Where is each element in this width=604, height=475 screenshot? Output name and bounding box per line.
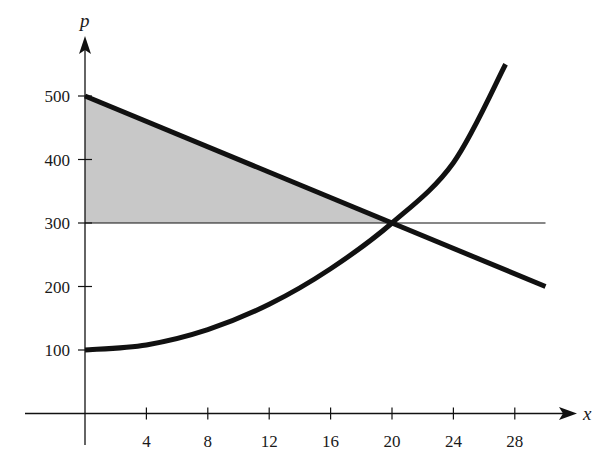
x-tick-label: 16 xyxy=(322,432,339,451)
y-tick-label: 300 xyxy=(45,214,71,233)
y-tick-label: 100 xyxy=(45,341,71,360)
consumer-surplus-chart: xp481216202428100200300400500 xyxy=(0,0,604,475)
x-tick-label: 8 xyxy=(204,432,213,451)
x-tick-label: 28 xyxy=(506,432,523,451)
x-tick-label: 24 xyxy=(445,432,463,451)
x-tick-label: 4 xyxy=(142,432,151,451)
y-tick-label: 400 xyxy=(45,151,71,170)
y-tick-label: 500 xyxy=(45,87,71,106)
x-tick-label: 20 xyxy=(384,432,401,451)
x-tick-label: 12 xyxy=(261,432,278,451)
y-tick-label: 200 xyxy=(45,278,71,297)
y-axis-label: p xyxy=(78,10,90,31)
x-axis-label: x xyxy=(582,403,592,424)
